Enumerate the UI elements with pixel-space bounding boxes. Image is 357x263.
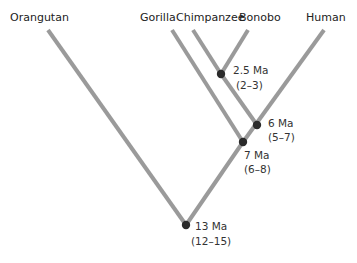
node-age-root: 13 Ma: [195, 220, 227, 232]
node-range-root: (12–15): [191, 235, 231, 247]
taxon-label-bonobo: Bonobo: [239, 11, 281, 24]
node-range-gorilla-panhomo: (6–8): [244, 163, 271, 175]
node-gorilla-panhomo: [239, 138, 247, 146]
node-chimp-bonobo: [217, 70, 225, 78]
node-age-chimp-bonobo: 2.5 Ma: [233, 64, 269, 76]
branch-gorilla: [172, 30, 243, 142]
node-range-pan-human: (5–7): [268, 131, 295, 143]
node-pan-human: [253, 121, 261, 129]
taxon-label-gorilla: Gorilla: [140, 11, 176, 24]
taxon-label-orangutan: Orangutan: [10, 11, 69, 24]
node-root: [182, 221, 190, 229]
node-age-gorilla-panhomo: 7 Ma: [244, 149, 270, 161]
branch-orangutan: [48, 30, 186, 225]
node-range-chimp-bonobo: (2–3): [236, 79, 263, 91]
phylogenetic-tree: Orangutan Gorilla Chimpanzee Bonobo Huma…: [0, 0, 357, 263]
branch-root-to-gorilla-panhomo: [186, 142, 243, 225]
taxon-label-human: Human: [306, 11, 346, 24]
taxon-label-chimpanzee: Chimpanzee: [176, 11, 245, 24]
node-age-pan-human: 6 Ma: [268, 117, 294, 129]
